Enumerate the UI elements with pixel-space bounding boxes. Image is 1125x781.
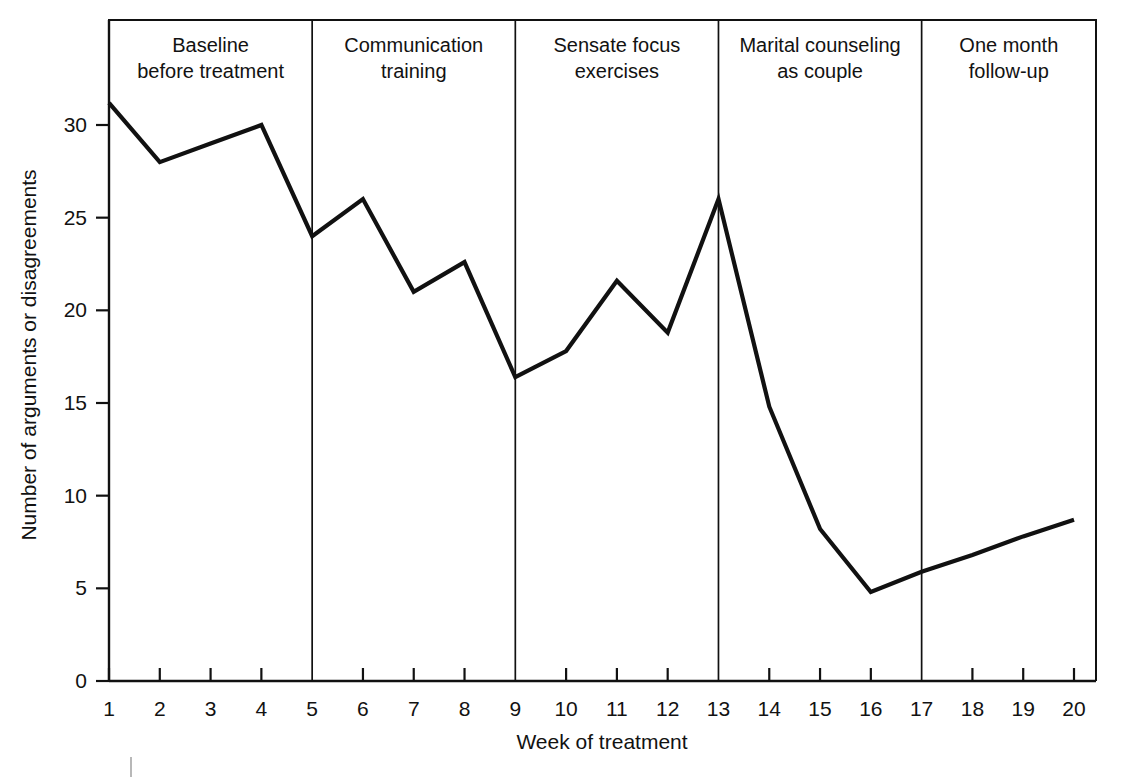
y-axis-tick-label: 30 (64, 113, 87, 136)
x-axis-tick-label: 16 (859, 697, 882, 720)
phase-label-line2: before treatment (137, 60, 284, 82)
y-axis-tick-label: 10 (64, 484, 87, 507)
x-axis-tick-label: 15 (808, 697, 831, 720)
chart-container: 051015202530 123456789101112131415161718… (0, 0, 1125, 781)
x-axis-tick-label: 6 (357, 697, 369, 720)
phase-label-line2: follow-up (969, 60, 1049, 82)
phase-label-line1: Sensate focus (554, 34, 681, 56)
phase-label-line1: Marital counseling (739, 34, 900, 56)
x-axis-tick-label: 11 (606, 697, 628, 720)
x-axis-tick-label: 4 (256, 697, 268, 720)
x-axis-tick-label: 13 (707, 697, 730, 720)
phase-label-line2: training (381, 60, 447, 82)
x-axis-tick-label: 20 (1062, 697, 1085, 720)
x-axis-tick-label: 5 (306, 697, 318, 720)
y-axis-title: Number of arguments or disagreements (17, 169, 40, 540)
x-axis-tick-label: 14 (758, 697, 782, 720)
y-axis-tick-label: 25 (64, 206, 87, 229)
y-axis-tick-label: 20 (64, 298, 87, 321)
x-axis-tick-label: 3 (205, 697, 217, 720)
x-axis-tick-label: 17 (910, 697, 933, 720)
x-axis-tick-label: 12 (656, 697, 679, 720)
x-axis-tick-label: 19 (1012, 697, 1035, 720)
x-axis-tick-label: 2 (154, 697, 166, 720)
line-chart-svg: 051015202530 123456789101112131415161718… (0, 0, 1125, 781)
x-axis-tick-label: 9 (509, 697, 521, 720)
x-axis-tick-label: 7 (408, 697, 420, 720)
y-axis-tick-label: 5 (75, 576, 87, 599)
x-axis-tick-label: 18 (961, 697, 984, 720)
x-axis-title: Week of treatment (516, 730, 687, 753)
chart-background (0, 0, 1125, 781)
x-axis-tick-label: 1 (103, 697, 115, 720)
phase-label-line1: Baseline (172, 34, 249, 56)
phase-label-line2: as couple (777, 60, 863, 82)
y-axis-tick-label: 0 (75, 669, 87, 692)
y-axis-tick-label: 15 (64, 391, 87, 414)
phase-label-line2: exercises (575, 60, 659, 82)
phase-label-line1: One month (959, 34, 1058, 56)
x-axis-tick-label: 10 (554, 697, 577, 720)
phase-label-line1: Communication (344, 34, 483, 56)
x-axis-tick-label: 8 (459, 697, 471, 720)
